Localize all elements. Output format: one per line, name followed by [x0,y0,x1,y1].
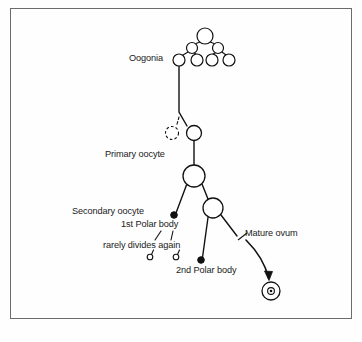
polar-body-daughters [147,254,179,260]
oogenesis-diagram-canvas: Oogonia Primary oocyte Secondary oocyte … [0,0,362,342]
connector-secondary-to-ootid [202,184,208,199]
rarely-divides-arrows [155,231,173,240]
oogonia-midleft-cell [187,43,198,54]
first-polar-body-cell [171,212,178,219]
oogonia-midright-cell [213,43,224,54]
label-second-polar-body: 2nd Polar body [176,265,237,275]
connector-ootid-to-second-polar [203,218,209,258]
rarely-divides-arrow-right [171,231,173,240]
label-primary-oocyte: Primary oocyte [105,149,165,159]
oogonia-leaf-cell-1 [173,54,185,66]
oogonia-apex-cell [197,28,213,44]
polar-daughter-left-cell [147,254,153,260]
oogonia-leaf-cell-4 [223,54,235,66]
mature-ovum-arrow-head [265,271,273,281]
secondary-oocyte-cell [183,165,205,187]
connector-secondary-to-first-polar [176,185,187,213]
mature-ovum-arrow [246,240,273,281]
mature-ovum-final-cell [262,282,280,300]
oogonia-leaf-cell-2 [191,54,203,66]
stem-daughter-right [178,250,180,255]
connector-branch-to-degenerating [177,117,180,126]
primary-oocyte-cell [187,126,202,141]
second-polar-body-cell [198,257,205,264]
mature-ovum-nucleolus [270,290,273,293]
label-mature-ovum: Mature ovum [245,228,298,238]
rarely-divides-arrow-left [155,231,161,240]
oogenesis-figure: Oogonia Primary oocyte Secondary oocyte … [0,0,362,342]
polar-daughter-right-cell [173,254,179,260]
stem-daughter-left [152,250,154,255]
oogonia-cluster [173,28,235,66]
degenerating-oocyte-cell [166,127,179,140]
connector-ootid-to-ovum [221,215,237,236]
label-secondary-oocyte: Secondary oocyte [72,206,144,216]
connector-oogonia-to-primary [179,66,187,126]
label-first-polar-body: 1st Polar body [121,219,179,229]
ootid-cell [203,198,223,218]
label-rarely-divides-again: rarely divides again [103,240,180,250]
label-oogonia: Oogonia [129,53,164,63]
oogonia-leaf-cell-3 [206,54,218,66]
connector-lines [176,66,237,258]
link-midleft-leaf1 [183,52,188,55]
